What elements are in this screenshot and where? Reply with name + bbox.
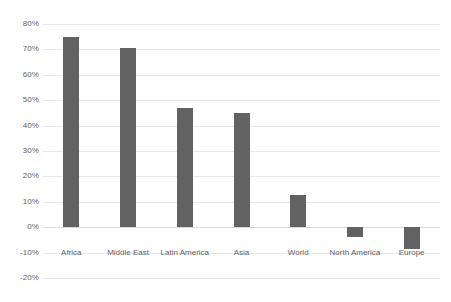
x-axis-tick-label: Latin America bbox=[161, 249, 209, 257]
x-axis-tick-label: Africa bbox=[61, 249, 81, 257]
x-axis-tick-label: North America bbox=[330, 249, 381, 257]
x-axis-tick-label: Europe bbox=[399, 249, 425, 257]
x-axis: AfricaMiddle EastLatin AmericaAsiaWorldN… bbox=[0, 0, 451, 302]
x-axis-tick-label: Asia bbox=[234, 249, 250, 257]
x-axis-tick-label: Middle East bbox=[107, 249, 149, 257]
x-axis-tick-label: World bbox=[288, 249, 309, 257]
bar-chart: 80%70%60%50%40%30%20%10%0%-10%-20% Afric… bbox=[0, 0, 451, 302]
